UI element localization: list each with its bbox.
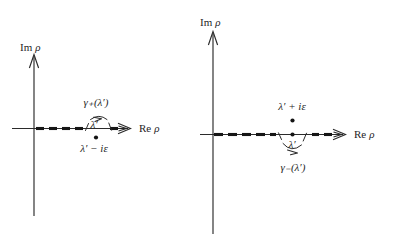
right-imaginary-axis bbox=[208, 32, 217, 235]
left-imaginary-axis bbox=[29, 55, 38, 217]
right-real-axis-label: Reρ bbox=[354, 128, 375, 140]
left-contour-label: γ₊(λ′) bbox=[84, 96, 109, 109]
right-imaginary-axis-label: Imρ bbox=[200, 16, 221, 28]
right-pole-dot bbox=[290, 118, 294, 122]
left-pole-label: λ′ − iε bbox=[79, 142, 108, 154]
right-on-axis-label: λ′ bbox=[287, 138, 296, 150]
right-complex-plane-panel: λ′ λ′ + iε γ₋(λ′) Imρ Reρ bbox=[200, 0, 413, 242]
left-real-axis-label: Reρ bbox=[139, 122, 160, 134]
left-complex-plane-panel: λ′ λ′ − iε γ₊(λ′) Imρ Reρ bbox=[0, 0, 200, 242]
right-on-axis-dot bbox=[290, 132, 294, 136]
right-contour-label: γ₋(λ′) bbox=[281, 161, 306, 174]
left-imaginary-axis-label: Imρ bbox=[20, 41, 41, 53]
right-pole-label: λ′ + iε bbox=[277, 100, 306, 112]
left-on-axis-label: λ′ bbox=[89, 118, 98, 130]
left-pole-dot bbox=[94, 135, 98, 139]
contour-diagram-figure: λ′ λ′ − iε γ₊(λ′) Imρ Reρ bbox=[0, 0, 413, 242]
